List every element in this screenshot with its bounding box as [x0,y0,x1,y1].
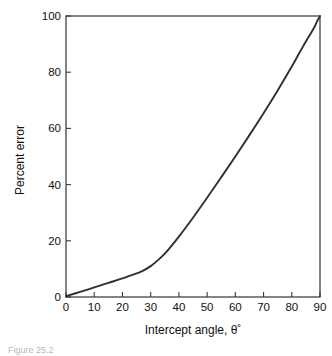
x-tick-label: 30 [144,301,157,313]
x-tick-label: 60 [229,301,242,313]
x-tick-label: 40 [172,301,185,313]
x-tick-label: 0 [63,301,69,313]
x-tick-label: 90 [314,301,327,313]
y-axis-title: Percent error [13,125,27,195]
figure-container: 0102030405060708090 020406080100 Interce… [0,0,332,356]
x-tick-label: 70 [257,301,270,313]
x-tick-label: 20 [116,301,129,313]
y-tick-label: 0 [55,291,61,303]
x-tick-label: 80 [285,301,298,313]
figure-caption: Figure 25.2 [8,345,54,355]
percent-error-chart: 0102030405060708090 020406080100 Interce… [0,0,332,356]
y-tick-label: 40 [48,179,61,191]
y-tick-label: 60 [48,122,61,134]
x-tick-label: 10 [88,301,101,313]
x-tick-label: 50 [201,301,214,313]
y-tick-label: 20 [48,235,61,247]
y-tick-label: 100 [42,10,61,22]
y-tick-label: 80 [48,66,61,78]
x-axis-title: Intercept angle, θ˚ [145,323,242,337]
